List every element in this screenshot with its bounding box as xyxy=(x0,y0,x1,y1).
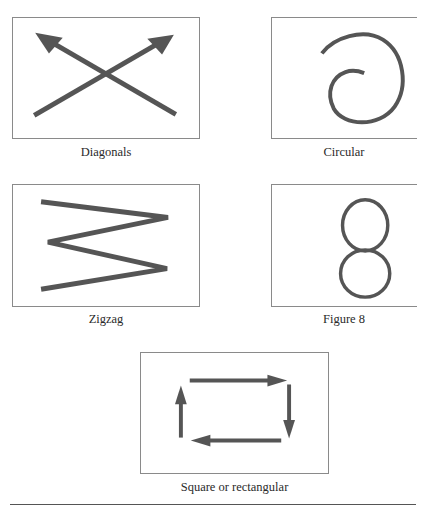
arrowhead-left-icon xyxy=(191,435,211,447)
square-diagram xyxy=(141,353,328,473)
arrowhead-up-icon xyxy=(175,385,187,404)
arrowhead-right-icon xyxy=(267,375,287,387)
diagonals-diagram xyxy=(13,18,199,138)
panel-zigzag xyxy=(12,184,200,307)
caption-zigzag: Zigzag xyxy=(12,312,200,327)
figure8-diagram xyxy=(272,185,417,306)
arrowhead-up-left-icon xyxy=(35,33,63,54)
spiral-path xyxy=(322,34,403,122)
caption-figure8: Figure 8 xyxy=(271,312,417,327)
arrowhead-down-icon xyxy=(283,420,295,439)
circular-diagram xyxy=(272,18,417,138)
figure8-lower-loop xyxy=(341,250,390,297)
figure8-upper-loop xyxy=(343,200,388,251)
diagonal-arrow-line-right xyxy=(34,41,163,116)
zigzag-diagram xyxy=(13,185,199,306)
panel-figure8 xyxy=(271,184,417,307)
panel-square xyxy=(140,352,329,474)
arrowhead-up-right-icon xyxy=(147,35,174,55)
caption-diagonals: Diagonals xyxy=(12,145,200,160)
diagonal-arrow-line-left xyxy=(47,40,176,115)
zigzag-path xyxy=(41,202,168,290)
caption-circular: Circular xyxy=(271,145,417,160)
panel-diagonals xyxy=(12,17,200,139)
panel-circular xyxy=(271,17,417,139)
bottom-divider xyxy=(10,504,416,505)
caption-square: Square or rectangular xyxy=(140,480,329,495)
